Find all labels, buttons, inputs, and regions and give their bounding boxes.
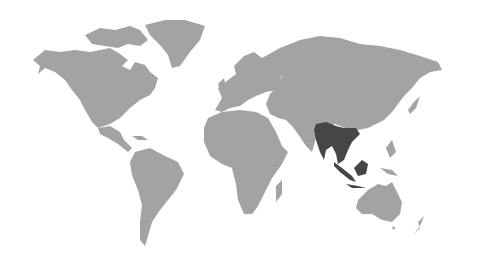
- world-map: [0, 0, 477, 264]
- continent-africa: [204, 110, 288, 214]
- continent-south-america: [130, 148, 184, 246]
- continent-oceania: [356, 168, 424, 234]
- continent-north-america: [33, 20, 205, 152]
- world-map-svg: [0, 0, 477, 264]
- highlight-southeast-asia: [314, 122, 368, 188]
